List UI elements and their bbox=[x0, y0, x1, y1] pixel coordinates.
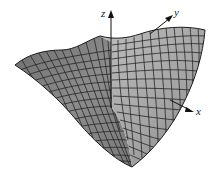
x-axis-label: x bbox=[195, 105, 201, 117]
surface-plot-figure: z y x bbox=[0, 0, 216, 179]
y-axis-label: y bbox=[173, 6, 179, 18]
z-axis-label: z bbox=[100, 7, 106, 19]
